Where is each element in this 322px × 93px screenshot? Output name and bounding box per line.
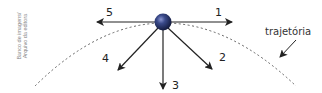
trajectory-diagram: 1 2 3 4 5 trajetória (0, 0, 322, 93)
ball (155, 14, 172, 31)
arrow-label-3: 3 (172, 79, 179, 92)
arrow-4 (118, 28, 158, 70)
arrow-label-2: 2 (219, 51, 226, 64)
trajectory-label: trajetória (265, 26, 311, 37)
arrow-2 (168, 28, 212, 69)
arrow-label-4: 4 (102, 52, 109, 65)
trajectory-path (35, 23, 296, 86)
arrow-label-1: 1 (215, 6, 222, 19)
arrow-label-5: 5 (106, 6, 113, 19)
trajectory-pointer-arrow (280, 40, 296, 57)
